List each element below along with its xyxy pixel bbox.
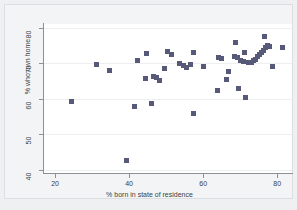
data-point — [69, 99, 74, 104]
data-point — [233, 40, 238, 45]
x-axis-tick — [55, 174, 56, 178]
data-point — [224, 77, 229, 82]
figure-inner-frame: 4050607080 20406080 % who own home % bor… — [4, 4, 293, 199]
data-point — [144, 51, 149, 56]
data-point — [270, 64, 275, 69]
y-axis-tick-label: 50 — [25, 133, 32, 149]
data-point — [191, 111, 196, 116]
data-point — [215, 88, 220, 93]
data-point — [267, 44, 272, 49]
y-axis-tick-label: 40 — [25, 168, 32, 184]
x-axis-tick — [203, 174, 204, 178]
y-axis-tick — [39, 134, 43, 135]
y-axis-tick — [39, 28, 43, 29]
x-axis-tick-label: 40 — [119, 180, 139, 187]
gridline — [44, 134, 292, 135]
x-axis-tick — [277, 174, 278, 178]
data-point — [188, 62, 193, 67]
y-axis-tick — [39, 99, 43, 100]
x-axis-tick-label: 20 — [45, 180, 65, 187]
x-axis-tick-label: 80 — [267, 180, 287, 187]
data-point — [280, 45, 285, 50]
data-point — [132, 104, 137, 109]
data-point — [94, 62, 99, 67]
x-axis-tick-label: 60 — [193, 180, 213, 187]
data-point — [219, 56, 224, 61]
data-point — [135, 58, 140, 63]
data-point — [143, 76, 148, 81]
y-axis-title: % who own home — [24, 7, 31, 127]
data-point — [191, 50, 196, 55]
chart-figure: 4050607080 20406080 % who own home % bor… — [0, 0, 297, 210]
y-axis-tick — [39, 170, 43, 171]
data-point — [236, 86, 241, 91]
data-point — [243, 95, 248, 100]
data-point — [242, 50, 247, 55]
x-axis-tick — [129, 174, 130, 178]
gridline — [44, 28, 292, 29]
data-point — [107, 68, 112, 73]
y-axis-line — [43, 23, 44, 174]
data-point — [162, 66, 167, 71]
data-point — [201, 64, 206, 69]
gridline — [44, 170, 292, 171]
data-point — [124, 158, 129, 163]
gridline — [44, 99, 292, 100]
x-axis-line — [43, 173, 293, 174]
x-axis-title: % born in state of residence — [5, 191, 294, 198]
data-point — [226, 69, 231, 74]
data-point — [149, 101, 154, 106]
plot-area — [44, 24, 292, 173]
data-point — [169, 52, 174, 57]
y-axis-tick — [39, 63, 43, 64]
data-point — [157, 78, 162, 83]
data-point — [262, 34, 267, 39]
